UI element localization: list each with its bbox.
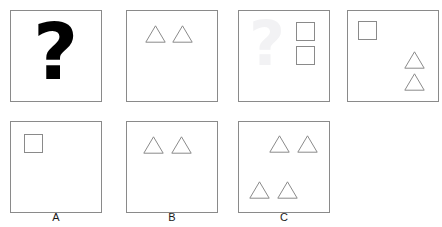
problem-panel-4[interactable] xyxy=(347,10,439,102)
triangle-icon xyxy=(143,136,164,154)
question-mark-placeholder: ? xyxy=(33,13,78,91)
option-panel-b[interactable] xyxy=(126,121,218,213)
square-icon xyxy=(296,22,315,41)
problem-panel-2[interactable] xyxy=(126,10,218,102)
triangle-icon xyxy=(277,181,298,199)
triangle-icon xyxy=(145,25,166,43)
triangle-icon xyxy=(269,135,290,153)
puzzle-canvas: ??ABC xyxy=(0,0,442,227)
triangle-icon xyxy=(171,136,192,154)
option-panel-c[interactable] xyxy=(238,121,330,213)
triangle-icon xyxy=(404,51,425,69)
option-panel-a[interactable] xyxy=(10,121,102,213)
problem-panel-3[interactable]: ? xyxy=(238,10,330,102)
square-icon xyxy=(296,46,315,65)
ghost-question-mark-watermark: ? xyxy=(249,13,285,75)
triangle-icon xyxy=(172,25,193,43)
triangle-icon xyxy=(249,181,270,199)
option-label-b: B xyxy=(126,211,218,223)
triangle-icon xyxy=(404,73,425,91)
square-icon xyxy=(358,21,377,40)
triangle-icon xyxy=(297,135,318,153)
option-label-a: A xyxy=(10,211,102,223)
square-icon xyxy=(24,134,43,153)
problem-panel-1[interactable]: ? xyxy=(10,10,102,102)
option-label-c: C xyxy=(238,211,330,223)
